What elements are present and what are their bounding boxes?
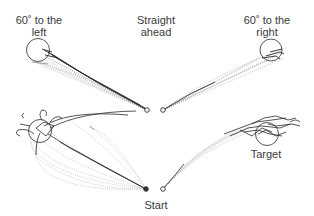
- label-60-left-line1: 60˚ to the: [12, 14, 66, 26]
- label-straight-ahead-line2: ahead: [128, 26, 184, 38]
- label-straight-ahead: Straight ahead: [128, 14, 184, 38]
- target-circle-bottom-right: [256, 123, 279, 146]
- label-60-left-line2: left: [12, 26, 66, 38]
- label-60-left: 60˚ to the left: [12, 14, 66, 38]
- start-circle-bottom-right: [161, 187, 166, 192]
- label-60-right-line1: 60˚ to the: [240, 14, 294, 26]
- label-start: Start: [136, 199, 176, 211]
- label-60-right-line2: right: [240, 26, 294, 38]
- panel-top-left: [27, 39, 150, 113]
- start-circle-top-right: [161, 108, 166, 113]
- label-straight-ahead-line1: Straight: [128, 14, 184, 26]
- start-circle-top-left: [145, 108, 150, 113]
- label-60-right: 60˚ to the right: [240, 14, 294, 38]
- start-circle-bottom-left: [144, 187, 149, 192]
- panel-top-right: [161, 39, 286, 112]
- panel-bottom-left: [16, 110, 148, 191]
- label-target: Target: [244, 148, 288, 160]
